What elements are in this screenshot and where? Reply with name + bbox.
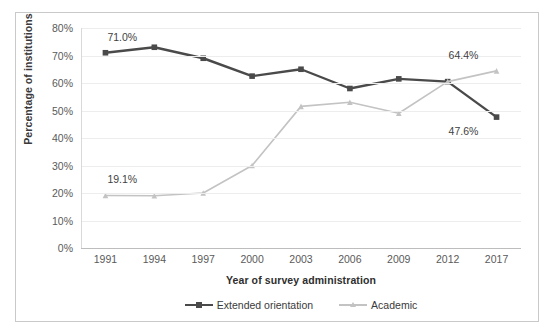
gridline [81,138,521,139]
gridline [81,193,521,194]
data-point-label: 47.6% [449,125,479,137]
series-line [105,71,496,196]
gridline [81,221,521,222]
legend-swatch-icon [339,300,367,310]
y-axis-tick-label: 0% [13,242,73,254]
y-axis-label: Percentage of institutions [22,4,34,154]
gridline [81,28,521,29]
legend-entry[interactable]: Academic [339,299,417,311]
plot-area: 71.0%19.1%64.4%47.6% [81,28,521,248]
gridline [81,83,521,84]
data-point-marker [494,114,500,120]
x-axis-tick-label: 2017 [467,253,527,265]
legend-entry[interactable]: Extended orientation [185,299,313,311]
y-axis-tick-label: 20% [13,187,73,199]
data-point-label: 19.1% [107,173,137,185]
data-point-marker [152,44,158,50]
chart-legend: Extended orientationAcademic [81,299,521,311]
x-axis-ticks: 199119941997200020032006200920122017 [81,253,521,269]
y-axis-tick-label: 30% [13,160,73,172]
y-axis-line [81,28,82,249]
gridline [81,166,521,167]
x-axis-label: Year of survey administration [81,274,521,286]
chart-figure: 0%10%20%30%40%50%60%70%80% Percentage of… [15,12,539,322]
data-point-marker [298,66,304,72]
y-axis-tick-label: 10% [13,215,73,227]
gridline [81,111,521,112]
data-point-marker [249,73,255,79]
data-point-marker [347,86,353,92]
data-point-marker [396,76,402,82]
legend-swatch-icon [185,300,213,310]
legend-label: Academic [371,299,417,311]
x-axis-line [81,248,521,249]
data-point-label: 64.4% [449,49,479,61]
legend-label: Extended orientation [217,299,313,311]
data-point-label: 71.0% [107,31,137,43]
